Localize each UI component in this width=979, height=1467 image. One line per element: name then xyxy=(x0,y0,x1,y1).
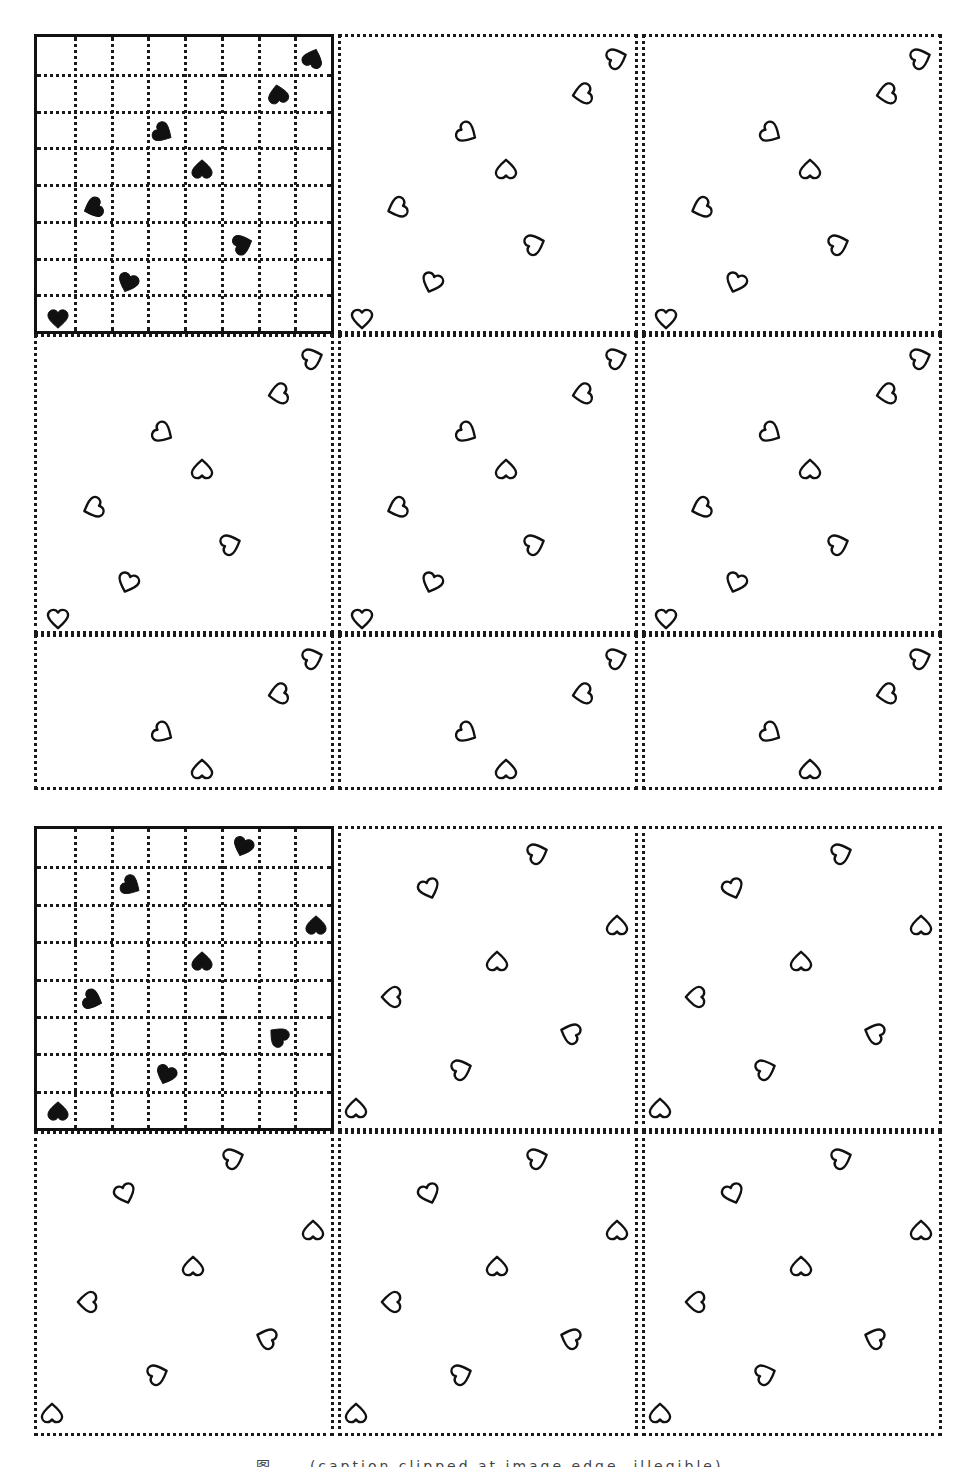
outline-heart-icon xyxy=(191,758,213,780)
figure-caption: 图 ... (caption clipped at image edge, il… xyxy=(0,1455,979,1467)
outline-heart-icon xyxy=(351,308,373,330)
filled-heart-icon xyxy=(229,833,257,861)
grid-line xyxy=(37,1091,331,1094)
repeat-tile xyxy=(338,34,638,334)
grid-line xyxy=(294,829,297,1128)
filled-heart-icon xyxy=(47,308,69,330)
outline-heart-icon xyxy=(252,1324,280,1352)
outline-heart-icon xyxy=(220,1144,248,1172)
filled-heart-icon xyxy=(79,986,107,1014)
outline-heart-icon xyxy=(790,950,812,972)
repeat-tile xyxy=(338,334,638,634)
outline-heart-icon xyxy=(825,230,853,258)
filled-heart-icon xyxy=(148,118,178,148)
repeat-tile xyxy=(338,826,638,1131)
filled-heart-icon xyxy=(116,871,146,901)
outline-heart-icon xyxy=(756,718,786,748)
outline-heart-icon xyxy=(907,344,935,372)
outline-heart-icon xyxy=(687,494,715,522)
outline-heart-icon xyxy=(380,986,402,1008)
outline-heart-icon xyxy=(719,1180,747,1208)
outline-heart-icon xyxy=(751,1055,779,1083)
outline-heart-icon xyxy=(860,1324,888,1352)
repeat-tile xyxy=(642,334,942,634)
grid-line xyxy=(184,829,187,1128)
outline-heart-icon xyxy=(569,381,594,406)
outline-heart-icon xyxy=(521,230,549,258)
grid-line xyxy=(37,258,331,261)
outline-heart-icon xyxy=(415,1180,443,1208)
outline-heart-icon xyxy=(415,875,443,903)
outline-heart-icon xyxy=(828,1144,856,1172)
repeat-tile xyxy=(642,1131,942,1436)
grid-line xyxy=(37,1053,331,1056)
outline-heart-icon xyxy=(655,308,677,330)
outline-heart-icon xyxy=(452,418,482,448)
outline-heart-icon xyxy=(495,158,517,180)
outline-heart-icon xyxy=(756,118,786,148)
outline-heart-icon xyxy=(655,608,677,630)
outline-heart-icon xyxy=(751,1360,779,1388)
outline-heart-icon xyxy=(684,986,706,1008)
outline-heart-icon xyxy=(907,644,935,672)
outline-heart-icon xyxy=(191,458,213,480)
outline-heart-icon xyxy=(351,608,373,630)
outline-heart-icon xyxy=(486,950,508,972)
filled-heart-icon xyxy=(299,44,327,72)
repeat-tile xyxy=(34,334,334,634)
grid-line xyxy=(184,37,187,331)
outline-heart-icon xyxy=(719,875,747,903)
outline-heart-icon xyxy=(447,1055,475,1083)
grid-line xyxy=(37,1016,331,1019)
outline-heart-icon xyxy=(687,194,715,222)
outline-heart-icon xyxy=(265,681,290,706)
outline-heart-icon xyxy=(649,1097,671,1119)
outline-heart-icon xyxy=(521,530,549,558)
grid-line xyxy=(294,37,297,331)
outline-heart-icon xyxy=(556,1019,584,1047)
outline-heart-icon xyxy=(799,158,821,180)
filled-heart-icon xyxy=(47,1100,69,1122)
outline-heart-icon xyxy=(684,1291,706,1313)
outline-heart-icon xyxy=(418,269,446,297)
outline-heart-icon xyxy=(860,1019,888,1047)
outline-heart-icon xyxy=(299,344,327,372)
outline-heart-icon xyxy=(828,839,856,867)
outline-heart-icon xyxy=(495,758,517,780)
outline-heart-icon xyxy=(345,1097,367,1119)
outline-heart-icon xyxy=(649,1402,671,1424)
outline-heart-icon xyxy=(47,608,69,630)
outline-heart-icon xyxy=(418,569,446,597)
outline-heart-icon xyxy=(148,718,178,748)
repeat-tile xyxy=(338,634,638,790)
motif-tile xyxy=(34,34,334,334)
outline-heart-icon xyxy=(603,644,631,672)
outline-heart-icon xyxy=(452,118,482,148)
outline-heart-icon xyxy=(524,839,552,867)
repeat-tile xyxy=(642,826,942,1131)
outline-heart-icon xyxy=(603,44,631,72)
outline-heart-icon xyxy=(790,1255,812,1277)
outline-heart-icon xyxy=(79,494,107,522)
repeat-tile xyxy=(34,634,334,790)
outline-heart-icon xyxy=(606,914,628,936)
outline-heart-icon xyxy=(447,1360,475,1388)
outline-heart-icon xyxy=(383,494,411,522)
outline-heart-icon xyxy=(495,458,517,480)
outline-heart-icon xyxy=(722,569,750,597)
outline-heart-icon xyxy=(873,381,898,406)
outline-heart-icon xyxy=(299,644,327,672)
outline-heart-icon xyxy=(524,1144,552,1172)
outline-heart-icon xyxy=(217,530,245,558)
outline-heart-icon xyxy=(606,1219,628,1241)
outline-heart-icon xyxy=(907,44,935,72)
outline-heart-icon xyxy=(556,1324,584,1352)
repeat-tile xyxy=(642,634,942,790)
grid-line xyxy=(37,294,331,297)
grid-line xyxy=(221,37,224,331)
repeat-tile xyxy=(34,1131,334,1436)
outline-heart-icon xyxy=(569,81,594,106)
filled-heart-icon xyxy=(305,914,327,936)
filled-heart-icon xyxy=(229,230,257,258)
outline-heart-icon xyxy=(910,914,932,936)
